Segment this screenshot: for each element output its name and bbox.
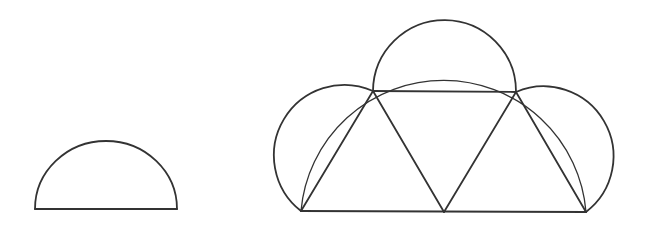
background [0,0,657,231]
lune-of-hippocrates-diagram [0,0,657,231]
trapezoid-top [373,91,516,92]
